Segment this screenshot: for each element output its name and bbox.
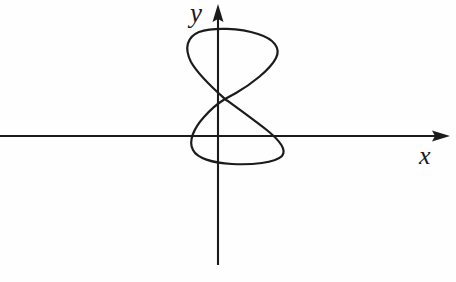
coordinate-plane-diagram bbox=[0, 0, 456, 282]
x-axis-label: x bbox=[419, 143, 431, 169]
figure-canvas: y x bbox=[0, 0, 456, 282]
figure-eight-curve bbox=[187, 29, 283, 164]
y-axis-label: y bbox=[190, 0, 202, 27]
